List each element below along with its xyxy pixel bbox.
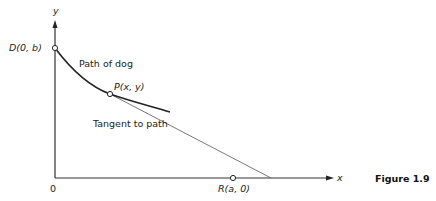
figure-svg	[0, 0, 436, 201]
point-p-label: P(x, y)	[114, 81, 144, 92]
figure-caption: Figure 1.9	[375, 173, 430, 184]
x-axis-label: x	[337, 172, 343, 183]
point-p-marker	[107, 91, 112, 96]
tangent-line	[110, 94, 271, 178]
origin-label: 0	[50, 183, 56, 194]
point-d-label: D(0, b)	[9, 42, 42, 53]
curve-annotation: Path of dog	[79, 58, 133, 69]
x-axis-arrow-icon	[326, 176, 334, 181]
tangent-annotation: Tangent to path	[93, 118, 168, 129]
y-axis-arrow-icon	[53, 20, 58, 28]
pursuit-curve-figure: y x 0 D(0, b) P(x, y) R(a, 0) Path of do…	[0, 0, 436, 201]
y-axis-label: y	[53, 5, 59, 16]
point-d-marker	[52, 45, 57, 50]
point-r-marker	[230, 175, 235, 180]
point-r-label: R(a, 0)	[218, 183, 250, 194]
